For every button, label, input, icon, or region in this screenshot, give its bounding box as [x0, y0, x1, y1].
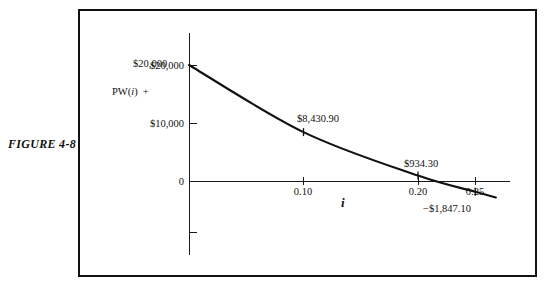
x-tick-label-0-20: 0.20 — [409, 186, 427, 197]
y-tick-mark-20000 — [189, 65, 197, 66]
y-axis-title: PW(i)+ — [112, 86, 149, 97]
x-tick-mark-0-25 — [475, 177, 476, 185]
figure-caption: FIGURE 4-8 — [8, 137, 76, 152]
x-tick-label-0-25: 0.25 — [466, 186, 484, 197]
y-tick-label-10000: $10,000 — [118, 118, 184, 129]
y-axis-title-sign: + — [143, 86, 149, 97]
x-tick-mark-0-10 — [303, 177, 304, 185]
y-axis-line — [189, 33, 190, 255]
x-tick-label-0-10: 0.10 — [294, 186, 312, 197]
figure-border-box — [78, 9, 537, 277]
annotation-negative-1847-10: −$1,847.10 — [423, 203, 471, 214]
x-tick-mark-0-20 — [418, 177, 419, 185]
x-axis-line — [189, 181, 510, 182]
y-axis-title-prefix: PW( — [112, 86, 131, 97]
annotation-934-30: $934.30 — [404, 158, 438, 169]
y-axis-title-suffix: ) — [134, 86, 138, 97]
y-tick-mark-10000 — [189, 123, 197, 124]
annotation-20000: $20,000 — [133, 58, 167, 69]
figure-page: FIGURE 4-8 $20,000 $10,000 0 0.10 0.20 0… — [0, 0, 552, 294]
y-tick-mark-negative — [189, 232, 197, 233]
annotation-8430-90: $8,430.90 — [297, 113, 339, 124]
y-tick-label-zero: 0 — [150, 176, 184, 187]
x-axis-title: i — [341, 195, 345, 211]
